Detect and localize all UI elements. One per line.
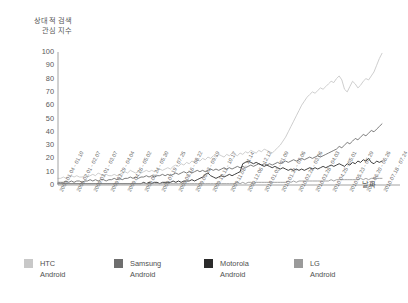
legend-platform: Android	[220, 269, 249, 280]
y-tick-10: 10	[28, 168, 54, 175]
legend-item-motorola[interactable]: MotorolaAndroid	[204, 258, 294, 281]
legend-brand: HTC	[40, 258, 65, 269]
legend-label: LGAndroid	[310, 258, 335, 281]
line-chart: 상대적 검색 관심 지수 0102030405060708090100 날짜 2…	[0, 0, 408, 303]
legend-item-htc[interactable]: HTCAndroid	[24, 258, 114, 281]
legend-platform: Android	[310, 269, 335, 280]
legend-swatch-icon	[24, 259, 33, 268]
y-tick-60: 60	[28, 101, 54, 108]
y-tick-100: 100	[28, 48, 54, 55]
y-tick-80: 80	[28, 75, 54, 82]
y-tick-40: 40	[28, 128, 54, 135]
legend-brand: LG	[310, 258, 335, 269]
legend-brand: Motorola	[220, 258, 249, 269]
y-tick-70: 70	[28, 88, 54, 95]
y-tick-50: 50	[28, 115, 54, 122]
y-tick-90: 90	[28, 61, 54, 68]
y-tick-20: 20	[28, 154, 54, 161]
legend-platform: Android	[130, 269, 161, 280]
x-axis-tick-labels: 2009.01.04 - 01.102009.02.01 - 02.072009…	[58, 188, 398, 248]
y-tick-30: 30	[28, 141, 54, 148]
legend-label: MotorolaAndroid	[220, 258, 249, 281]
legend-label: SamsungAndroid	[130, 258, 161, 281]
y-tick-0: 0	[28, 181, 54, 188]
legend-swatch-icon	[204, 259, 213, 268]
legend-swatch-icon	[114, 259, 123, 268]
legend-platform: Android	[40, 269, 65, 280]
chart-legend: HTCAndroidSamsungAndroidMotorolaAndroidL…	[0, 258, 408, 298]
legend-item-samsung[interactable]: SamsungAndroid	[114, 258, 204, 281]
legend-brand: Samsung	[130, 258, 161, 269]
legend-swatch-icon	[294, 259, 303, 268]
legend-label: HTCAndroid	[40, 258, 65, 281]
legend-item-lg[interactable]: LGAndroid	[294, 258, 384, 281]
